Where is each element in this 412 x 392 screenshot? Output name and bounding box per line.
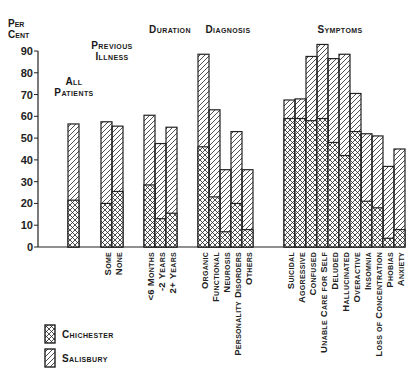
bar-chichester [350, 132, 361, 247]
x-category-label: <6 Months [145, 252, 156, 301]
x-category-label: Personality Disorders [232, 252, 243, 356]
bar-chichester [383, 238, 394, 247]
legend-item-chichester: Chichester [44, 324, 114, 344]
bar-chichester [155, 219, 166, 247]
bars [68, 44, 405, 247]
bar-chichester [306, 121, 317, 247]
y-tick-label: 90 [21, 45, 33, 57]
cross-hatch-swatch-icon [44, 324, 56, 344]
x-category-label: Unable Care for Self [318, 252, 329, 353]
x-category-label: Overactive [351, 252, 362, 302]
y-tick-label: 40 [21, 154, 33, 166]
y-tick-label: 50 [21, 132, 33, 144]
x-category-label: 2+ Years [167, 252, 178, 294]
y-tick-label: 80 [21, 67, 33, 79]
x-category-label: Some [102, 252, 113, 276]
x-category-label: Deluded [329, 252, 340, 290]
x-category-label: Organic [199, 252, 210, 289]
x-axis-labels: SomeNone<6 Months-2 Years2+ YearsOrganic… [102, 252, 406, 357]
x-category-label: Suicidal [285, 252, 296, 290]
y-tick-label: 0 [27, 241, 33, 253]
bar-chichester [112, 191, 123, 247]
x-category-label: Others [243, 252, 254, 285]
bar-chichester [209, 197, 220, 247]
x-category-label: Confused [307, 252, 318, 296]
legend-label-salisbury: Salisbury [62, 353, 108, 364]
legend-label-chichester: Chichester [62, 329, 114, 340]
x-category-label: Anxiety [395, 252, 406, 286]
bar-chichester [220, 232, 231, 247]
x-category-label: Insomnia [362, 252, 373, 290]
y-tick-label: 60 [21, 110, 33, 122]
bar-chichester [317, 119, 328, 247]
bar-chichester [295, 119, 306, 247]
x-category-label: Aggressive [296, 252, 307, 303]
y-tick-label: 70 [21, 89, 33, 101]
bar-chichester [144, 185, 155, 247]
bar-chichester [101, 203, 112, 247]
bar-salisbury [383, 166, 394, 247]
bar-chichester [328, 142, 339, 247]
y-tick-label: 20 [21, 197, 33, 209]
x-category-label: Hallucinated [340, 252, 351, 312]
legend-item-salisbury: Salisbury [44, 348, 114, 368]
bar-chichester [231, 203, 242, 247]
diagonal-hatch-swatch-icon [44, 348, 56, 368]
bar-chichester [372, 208, 383, 247]
bar-chichester [68, 200, 79, 247]
x-category-label: Loss of Concentration [373, 252, 384, 357]
bar-chichester [166, 213, 177, 247]
y-tick-label: 30 [21, 176, 33, 188]
bar-chichester [339, 156, 350, 247]
x-category-label: -2 Years [156, 252, 167, 291]
x-category-label: Functional [210, 252, 221, 302]
bar-chichester [198, 147, 209, 247]
y-tick-label: 10 [21, 219, 33, 231]
x-category-label: Phobias [384, 252, 395, 288]
bar-chichester [361, 201, 372, 247]
x-category-label: None [113, 252, 124, 275]
bar-chichester [284, 119, 295, 247]
bar-chichester [242, 230, 253, 247]
bar-chichester [394, 230, 405, 247]
x-category-label: Neurosis [221, 252, 232, 293]
legend: Chichester Salisbury [44, 324, 114, 372]
